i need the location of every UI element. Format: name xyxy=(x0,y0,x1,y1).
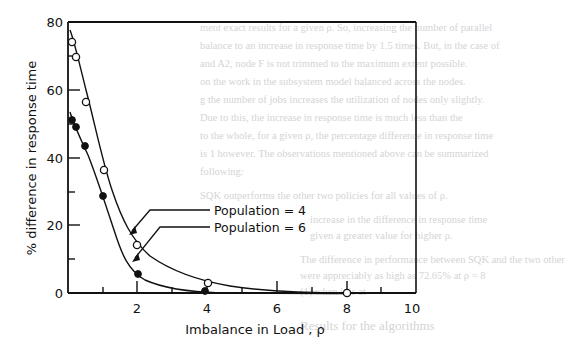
data-point xyxy=(202,288,209,295)
y-tick-labels: 80 60 40 20 0 xyxy=(46,15,63,301)
curve-population-4 xyxy=(70,30,347,293)
data-point xyxy=(100,193,107,200)
x-tick-6: 6 xyxy=(273,301,281,316)
data-point xyxy=(133,241,140,248)
data-point xyxy=(73,124,80,131)
markers-population-4 xyxy=(68,38,350,296)
y-tick-0: 0 xyxy=(55,286,63,301)
x-tick-4: 4 xyxy=(203,301,211,316)
data-point xyxy=(204,279,211,286)
x-tick-labels: 2 4 6 8 10 xyxy=(133,301,420,316)
x-axis-title: Imbalance in Load , ρ xyxy=(185,322,325,337)
data-point xyxy=(82,143,89,150)
data-point xyxy=(135,271,142,278)
data-point xyxy=(68,38,75,45)
markers-population-6 xyxy=(69,117,209,295)
x-tick-10: 10 xyxy=(404,301,421,316)
x-tick-8: 8 xyxy=(343,301,351,316)
plot-frame xyxy=(68,22,416,293)
data-point xyxy=(100,166,107,173)
data-point xyxy=(343,289,350,296)
y-tick-40: 40 xyxy=(46,151,63,166)
y-tick-60: 60 xyxy=(46,83,63,98)
legend-label-population-6: Population = 6 xyxy=(214,220,306,235)
data-point xyxy=(69,117,76,124)
data-point xyxy=(82,98,89,105)
y-axis-title: % difference in response time xyxy=(24,61,39,255)
y-tick-20: 20 xyxy=(46,218,63,233)
x-tick-2: 2 xyxy=(133,301,141,316)
legend-label-population-4: Population = 4 xyxy=(214,203,306,218)
data-point xyxy=(72,53,79,60)
y-tick-80: 80 xyxy=(46,15,63,30)
legend-annotation-population-6: Population = 6 xyxy=(132,220,306,262)
